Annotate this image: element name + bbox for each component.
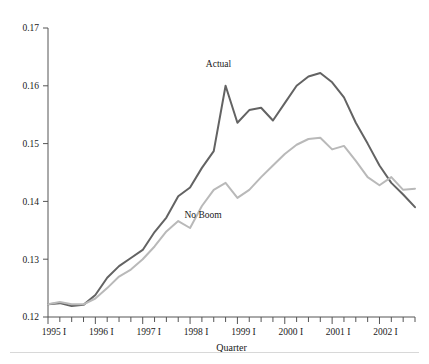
y-tick-label: 0.12 — [22, 312, 39, 322]
x-tick-label: 1996 I — [89, 327, 114, 337]
series-line-no-boom — [48, 138, 415, 304]
chart-figure: 0.120.130.140.150.160.171995 I1996 I1997… — [0, 0, 429, 364]
x-tick-label: 1998 I — [184, 327, 209, 337]
x-tick-label: 1997 I — [136, 327, 161, 337]
y-tick-label: 0.13 — [22, 255, 39, 265]
series-label-actual: Actual — [206, 59, 232, 69]
y-tick-label: 0.15 — [22, 139, 39, 149]
footer-divider — [10, 352, 419, 353]
x-tick-label: 1995 I — [42, 327, 67, 337]
y-tick-label: 0.16 — [22, 81, 39, 91]
x-tick-label: 2001 I — [326, 327, 351, 337]
x-tick-label: 2000 I — [279, 327, 304, 337]
x-tick-label: 1999 I — [231, 327, 256, 337]
x-tick-label: 2002 I — [373, 327, 398, 337]
y-tick-label: 0.14 — [22, 197, 39, 207]
y-tick-label: 0.17 — [22, 23, 39, 33]
quarterly-line-chart: 0.120.130.140.150.160.171995 I1996 I1997… — [0, 0, 429, 364]
series-label-no-boom: No Boom — [184, 210, 222, 220]
